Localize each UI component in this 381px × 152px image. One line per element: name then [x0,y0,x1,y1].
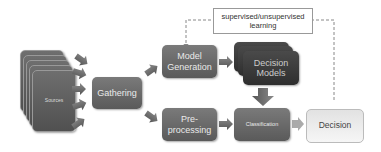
classification-label: Classification [246,121,278,127]
decision-models-box: Decision Models [243,51,299,85]
decision-models-label: Decision Models [254,58,289,79]
gathering-label: Gathering [97,88,137,98]
decision-label: Decision [319,121,352,131]
preprocessing-label: Pre- processing [168,114,212,135]
preprocessing-box: Pre- processing [162,108,217,141]
decision-box: Decision [306,109,364,143]
classification-box: Classification [234,108,290,141]
model-generation-box: Model Generation [162,45,217,78]
model-generation-label: Model Generation [167,51,212,72]
gathering-box: Gathering [92,77,142,109]
